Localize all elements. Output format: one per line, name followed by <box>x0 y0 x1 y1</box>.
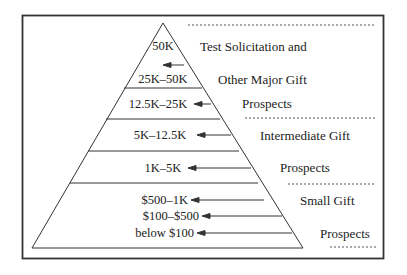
group-label: Small Gift <box>300 193 355 208</box>
gift-pyramid-diagram: 50K 25K–50K 12.5K–25K 5K–12.5K 1K–5K $50… <box>0 0 407 275</box>
tier-label: 1K–5K <box>145 161 182 175</box>
group-label: Prospects <box>242 96 292 111</box>
group-label: Prospects <box>320 226 370 241</box>
arrow-left-icon <box>197 133 205 138</box>
arrow-left-icon <box>197 231 205 236</box>
tier-label: 5K–12.5K <box>134 128 186 142</box>
group-label: Test Solicitation and <box>200 39 307 54</box>
tier-label: 50K <box>152 39 174 53</box>
tier-label: $500–1K <box>141 193 188 207</box>
arrow-left-icon <box>163 63 171 68</box>
tier-label: 25K–50K <box>138 72 187 86</box>
tier-label: $100–$500 <box>143 209 199 223</box>
tier-label: 12.5K–25K <box>129 97 188 111</box>
group-label: Prospects <box>280 160 330 175</box>
arrow-left-icon <box>202 214 210 219</box>
tier-label: below $100 <box>135 226 194 240</box>
arrow-left-icon <box>191 198 199 203</box>
group-label: Other Major Gift <box>218 72 307 87</box>
group-label: Intermediate Gift <box>260 128 350 143</box>
arrow-left-icon <box>188 166 196 171</box>
arrow-left-icon <box>194 102 202 107</box>
